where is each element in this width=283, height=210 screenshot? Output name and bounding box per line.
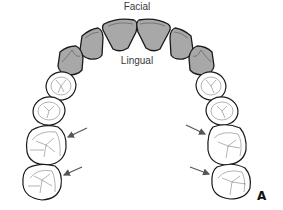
arrow-molar-1-left [68, 128, 87, 137]
arrow-molar-1-right [186, 125, 205, 134]
lingual-label: Lingual [121, 55, 153, 66]
arrow-molar-2-right [190, 167, 209, 174]
molar-2-left [23, 164, 62, 200]
arrow-molar-2-left [64, 167, 82, 175]
facial-label: Facial [124, 1, 151, 12]
molar-1-right [208, 125, 246, 165]
dental-arch-diagram [0, 0, 283, 210]
lateral-incisor-left [80, 28, 103, 59]
canine-left [58, 46, 83, 75]
panel-letter: A [257, 189, 266, 203]
